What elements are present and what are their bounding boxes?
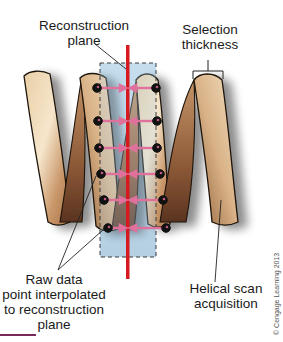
label-reconstruction-plane: Reconstruction plane <box>38 18 130 48</box>
label-selection-thickness: Selection thickness <box>175 22 245 52</box>
leader-raw-data-2 <box>58 229 104 270</box>
label-helical-scan: Helical scan acquisition <box>188 281 264 311</box>
label-line: plane <box>38 33 130 48</box>
label-line: point interpolated <box>2 287 106 302</box>
label-line: plane <box>2 317 106 332</box>
copyright-notice: © Cengage Learning 2013 <box>273 253 280 335</box>
helical-reconstruction-diagram: Reconstruction plane Selection thickness… <box>0 0 283 342</box>
label-line: acquisition <box>188 296 264 311</box>
label-line: Helical scan <box>188 281 264 296</box>
helix-ribbon-2-back <box>60 76 85 222</box>
helix-ribbon-4 <box>194 74 238 225</box>
label-line: to reconstruction <box>2 302 106 317</box>
label-line: Reconstruction <box>38 18 130 33</box>
reconstruction-plane-line <box>126 45 130 279</box>
label-raw-data-point: Raw data point interpolated to reconstru… <box>2 272 106 332</box>
label-line: thickness <box>175 37 245 52</box>
accent-bar <box>0 334 36 336</box>
label-line: Selection <box>175 22 245 37</box>
label-line: Raw data <box>2 272 106 287</box>
